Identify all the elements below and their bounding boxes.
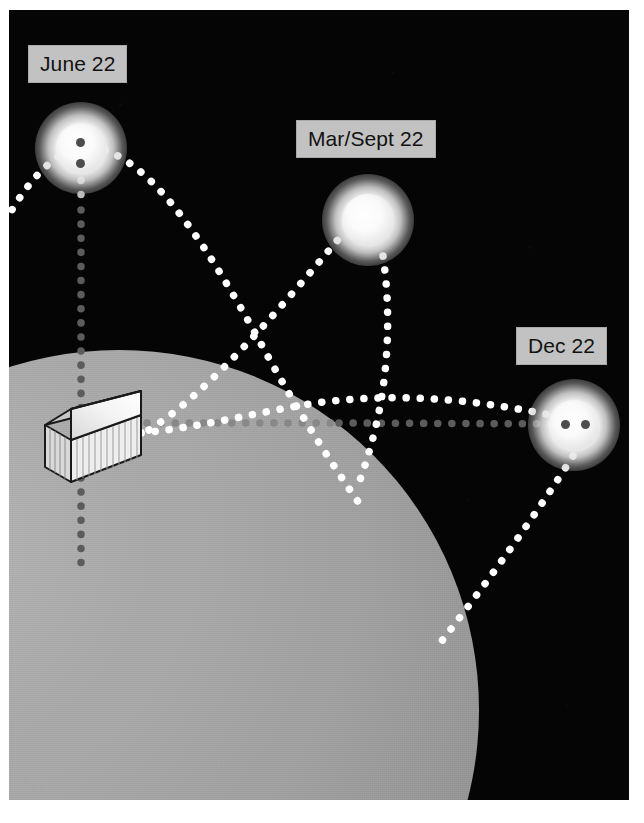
- december-solstice-path-rising: [127, 398, 555, 434]
- sun-mar-sept: [322, 174, 414, 266]
- sun-core: [342, 194, 394, 246]
- label-mar-sept: Mar/Sept 22: [296, 120, 436, 158]
- observer-building-icon: [37, 385, 157, 490]
- label-june: June 22: [28, 45, 127, 83]
- label-dec: Dec 22: [516, 327, 607, 365]
- december-solstice-path-setting: [441, 456, 573, 642]
- zenith-marker-dot: [76, 138, 85, 147]
- sun-path-figure: June 22 Mar/Sept 22 Dec 22: [0, 0, 644, 823]
- horizon-marker-dot: [581, 420, 590, 429]
- equinox-path-ascending: [149, 236, 341, 430]
- zenith-marker-dot: [76, 159, 85, 168]
- illustration-plate: June 22 Mar/Sept 22 Dec 22: [9, 10, 629, 800]
- sun-june: [35, 102, 127, 194]
- horizon-marker-dot: [561, 420, 570, 429]
- sun-dec: [528, 379, 620, 471]
- equinox-path-descending: [357, 256, 388, 488]
- sun-core: [549, 400, 599, 450]
